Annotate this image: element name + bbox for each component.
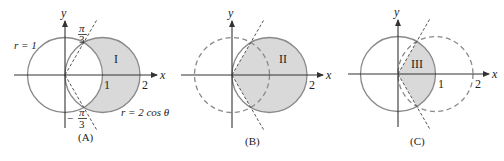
y-axis-label: y (60, 6, 67, 20)
panel-b: x y 2 II (B) (181, 6, 332, 148)
tick-2-label: 2 (475, 77, 481, 91)
panel-a: x y 1 2 I r = 1 r = 2 cos θ π 3 − π 3 (A… (14, 6, 170, 144)
tick-1-label: 1 (438, 77, 444, 91)
x-axis-label: x (159, 68, 166, 82)
panel-c: x y 1 2 III (C) (348, 5, 498, 148)
svg-text:3: 3 (79, 118, 85, 130)
svg-text:−: − (67, 112, 73, 124)
tick-1-label: 1 (104, 78, 110, 92)
y-axis-label: y (227, 6, 234, 20)
svg-text:3: 3 (79, 33, 85, 45)
caption-b: (B) (245, 135, 260, 148)
unit-circle-label: r = 1 (14, 39, 37, 51)
caption-c: (C) (410, 135, 425, 148)
tick-2-label: 2 (309, 78, 315, 92)
x-axis-label: x (325, 68, 332, 82)
tick-2-label: 2 (142, 78, 148, 92)
polar-regions-figure: x y 1 2 I r = 1 r = 2 cos θ π 3 − π 3 (A… (0, 0, 504, 161)
angle-label-minus-pi-over-3: − π 3 (67, 106, 87, 130)
region-iii-label: III (411, 57, 423, 71)
region-i-label: I (114, 52, 118, 66)
x-axis-label: x (491, 67, 498, 81)
cos-circle-label: r = 2 cos θ (121, 106, 170, 118)
y-axis-label: y (393, 5, 400, 19)
caption-a: (A) (78, 131, 94, 144)
region-ii-label: II (279, 52, 287, 66)
svg-text:π: π (79, 106, 85, 118)
